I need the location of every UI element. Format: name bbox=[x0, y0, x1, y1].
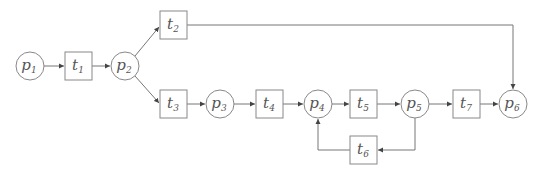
transition-t3: t3 bbox=[160, 90, 187, 118]
petri-net-diagram: p1p2p3p4p5p6 t1t2t3t4t5t6t7 bbox=[0, 0, 543, 173]
arc-t6-p4 bbox=[318, 119, 350, 150]
transition-t6: t6 bbox=[350, 136, 377, 164]
arcs bbox=[44, 25, 513, 150]
transitions: t1t2t3t4t5t6t7 bbox=[65, 11, 480, 164]
place-p2: p2 bbox=[111, 52, 139, 80]
arc-p5-t6 bbox=[378, 118, 415, 150]
transition-t4: t4 bbox=[256, 90, 283, 118]
transition-t5: t5 bbox=[350, 90, 377, 118]
place-p3: p3 bbox=[206, 90, 234, 118]
place-p5: p5 bbox=[401, 90, 429, 118]
arc-p2-t2 bbox=[135, 27, 159, 56]
place-p6: p6 bbox=[499, 90, 527, 118]
place-p4: p4 bbox=[304, 90, 332, 118]
transition-t2: t2 bbox=[160, 11, 187, 39]
arc-t2-p6 bbox=[187, 25, 513, 89]
transition-t7: t7 bbox=[453, 90, 480, 118]
arc-p2-t3 bbox=[135, 76, 159, 103]
place-p1: p1 bbox=[16, 52, 44, 80]
transition-t1: t1 bbox=[65, 52, 92, 80]
